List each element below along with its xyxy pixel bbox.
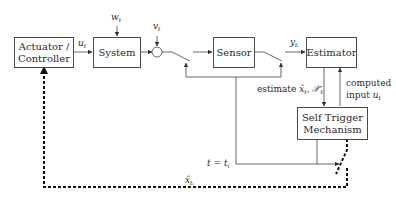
sensor-label: Sensor: [216, 47, 251, 59]
sampled-output-label: ytᵢ: [290, 37, 299, 50]
actuator-label-line1: Actuator /: [19, 41, 70, 53]
self-trigger-block: Self Trigger Mechanism: [297, 107, 368, 140]
measurement-noise-label: vt: [153, 21, 161, 34]
sent-estimate-label: x̂tᵢ: [185, 175, 194, 188]
actuator-label-line2: Controller: [18, 53, 70, 65]
self-trigger-label-line1: Self Trigger: [302, 112, 363, 124]
control-input-label: ut: [78, 38, 86, 51]
self-trigger-label-line2: Mechanism: [303, 124, 361, 136]
computed-input-line1: computed: [346, 77, 391, 89]
trigger-time-label: t = ti: [207, 158, 229, 171]
system-block: System: [93, 37, 141, 68]
estimate-label: estimate x̂t, 𝒳̃t: [257, 84, 323, 97]
summing-junction: [152, 47, 162, 57]
computed-input-label: computed input ut: [346, 77, 391, 104]
switch2-blade: [264, 52, 282, 61]
diagram-wires: [0, 0, 396, 200]
estimator-block: Estimator: [306, 37, 357, 68]
switch1-blade: [172, 52, 190, 61]
actuator-controller-block: Actuator / Controller: [14, 37, 74, 68]
estimator-label: Estimator: [307, 47, 357, 59]
process-noise-label: wt: [111, 12, 121, 25]
sensor-block: Sensor: [213, 37, 255, 68]
dotted-switch-blade: [336, 139, 347, 174]
self-triggered-control-diagram: Actuator / Controller System Sensor Esti…: [0, 0, 396, 200]
computed-input-line2: input ut: [346, 89, 391, 104]
system-label: System: [98, 47, 135, 59]
